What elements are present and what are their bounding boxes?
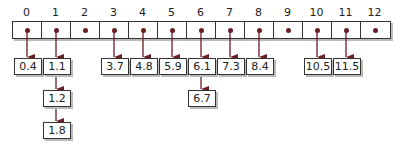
list-node: 6.7: [188, 90, 216, 107]
list-node: 5.9: [159, 58, 187, 75]
list-node: 4.8: [130, 58, 158, 75]
list-node: 0.4: [14, 58, 42, 75]
list-node: 10.5: [304, 58, 332, 75]
list-node: 8.4: [246, 58, 274, 75]
list-node: 1.1: [43, 58, 71, 75]
list-node: 6.1: [188, 58, 216, 75]
list-node: 1.2: [43, 90, 71, 107]
list-node: 11.5: [333, 58, 361, 75]
list-node: 3.7: [101, 58, 129, 75]
list-node: 7.3: [217, 58, 245, 75]
list-node: 1.8: [43, 122, 71, 139]
